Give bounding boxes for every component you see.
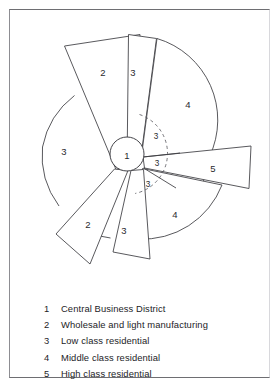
legend-key-1: 1	[44, 303, 61, 314]
zone-label-cbd: 1	[124, 150, 129, 161]
zone-label-wholesale-upper: 2	[100, 67, 105, 78]
legend-item-1: 1 Central Business District	[44, 303, 254, 317]
zone-label-low-class-inner-upper: 3	[154, 132, 159, 141]
legend-key-4: 4	[44, 352, 61, 363]
legend-item-2: 2 Wholesale and light manufacturing	[44, 319, 254, 333]
legend-item-4: 4 Middle class residential	[44, 352, 254, 366]
zone-label-wholesale-lower: 2	[85, 219, 90, 230]
zone-label-high-class: 5	[210, 163, 215, 174]
zone-label-low-class-inner-mid: 3	[155, 159, 160, 168]
legend: 1 Central Business District 2 Wholesale …	[44, 303, 254, 384]
legend-label-5: High class residential	[61, 368, 152, 379]
figure-root: 1 2 3 4 3 3 3 3 5 4 3 2 1 Central Busine…	[0, 0, 274, 392]
outer-ring-arc-left	[42, 147, 59, 206]
legend-item-5: 5 High class residential	[44, 368, 254, 382]
zone-label-middle-class-lower-right: 4	[172, 209, 177, 220]
legend-label-3: Low class residential	[61, 335, 149, 346]
legend-key-2: 2	[44, 319, 61, 330]
legend-label-2: Wholesale and light manufacturing	[61, 319, 208, 330]
legend-key-3: 3	[44, 335, 61, 346]
legend-key-5: 5	[44, 368, 61, 379]
zone-label-low-class-left: 3	[61, 146, 66, 157]
zone-label-low-class-upper: 3	[130, 67, 135, 78]
zone-label-middle-class-upper-right: 4	[185, 99, 190, 110]
legend-label-1: Central Business District	[61, 303, 165, 314]
legend-label-4: Middle class residential	[61, 352, 160, 363]
legend-item-3: 3 Low class residential	[44, 335, 254, 349]
zone-label-low-class-inner-lower: 3	[146, 180, 151, 189]
outer-ring-arc-upper-left	[43, 96, 75, 148]
zone-label-low-class-lower: 3	[121, 225, 126, 236]
